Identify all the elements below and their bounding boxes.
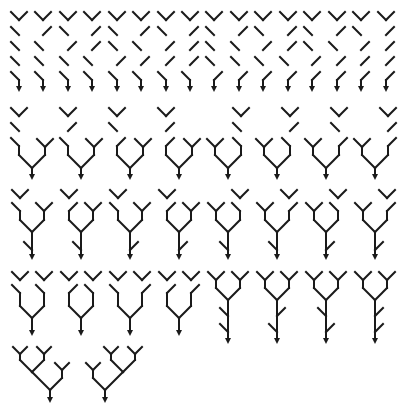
tree-row4-7 [306, 272, 346, 344]
tree-row4-3 [110, 272, 150, 336]
tree-row1-4 [84, 12, 100, 92]
tree-row1-1 [11, 12, 27, 92]
tree-row1-3 [60, 12, 76, 92]
root-arrow-icon [323, 254, 329, 260]
tree-row2-1 [11, 108, 53, 180]
root-arrow-icon [187, 86, 193, 92]
root-arrow-icon [372, 338, 378, 344]
root-arrow-icon [274, 338, 280, 344]
root-arrow-icon [225, 338, 231, 344]
root-arrow-icon [260, 86, 266, 92]
tree-row2-2 [60, 108, 102, 180]
root-arrow-icon [309, 86, 315, 92]
tree-row1-15 [353, 12, 369, 92]
root-arrow-icon [65, 86, 71, 92]
tree-row1-7 [158, 12, 174, 92]
root-arrow-icon [274, 254, 280, 260]
tree-row3-5 [208, 190, 248, 260]
root-arrow-icon [383, 86, 389, 92]
tree-row2-3 [109, 108, 151, 180]
root-arrow-icon [225, 254, 231, 260]
tree-row4-2 [61, 272, 101, 336]
tree-row4-1 [12, 272, 52, 336]
tree-row4-8 [355, 272, 395, 344]
root-arrow-icon [323, 338, 329, 344]
tree-row5-2 [86, 347, 142, 403]
root-arrow-icon [138, 86, 144, 92]
tree-row4-5 [208, 272, 248, 344]
tree-row1-12 [280, 12, 296, 92]
root-arrow-icon [372, 174, 378, 180]
root-arrow-icon [114, 86, 120, 92]
tree-row2-5 [207, 108, 249, 180]
tree-row1-16 [378, 12, 394, 92]
tree-row2-8 [354, 108, 396, 180]
root-arrow-icon [334, 86, 340, 92]
tree-row1-9 [206, 12, 222, 92]
root-arrow-icon [78, 330, 84, 336]
root-arrow-icon [372, 254, 378, 260]
root-arrow-icon [176, 330, 182, 336]
tree-row3-6 [257, 190, 297, 260]
tree-row2-6 [256, 108, 298, 180]
root-arrow-icon [47, 397, 53, 403]
root-arrow-icon [29, 174, 35, 180]
root-arrow-icon [29, 254, 35, 260]
tree-row1-13 [304, 12, 320, 92]
root-arrow-icon [176, 174, 182, 180]
tree-row3-8 [355, 190, 395, 260]
tree-row1-5 [109, 12, 125, 92]
root-arrow-icon [78, 174, 84, 180]
tree-row3-4 [159, 190, 199, 260]
root-arrow-icon [78, 254, 84, 260]
root-arrow-icon [358, 86, 364, 92]
tree-diagram [0, 0, 406, 415]
tree-row3-2 [61, 190, 101, 260]
root-arrow-icon [225, 174, 231, 180]
tree-row3-1 [12, 190, 52, 260]
root-arrow-icon [127, 330, 133, 336]
root-arrow-icon [40, 86, 46, 92]
tree-row3-3 [110, 190, 150, 260]
tree-row1-14 [329, 12, 345, 92]
root-arrow-icon [102, 397, 108, 403]
root-arrow-icon [323, 174, 329, 180]
tree-row1-10 [231, 12, 247, 92]
root-arrow-icon [176, 254, 182, 260]
root-arrow-icon [16, 86, 22, 92]
root-arrow-icon [89, 86, 95, 92]
tree-row2-7 [305, 108, 347, 180]
tree-row4-6 [257, 272, 297, 344]
tree-row5-1 [13, 347, 69, 403]
root-arrow-icon [285, 86, 291, 92]
root-arrow-icon [236, 86, 242, 92]
root-arrow-icon [274, 174, 280, 180]
tree-row4-4 [159, 272, 199, 336]
tree-row3-7 [306, 190, 346, 260]
tree-row1-11 [255, 12, 271, 92]
root-arrow-icon [163, 86, 169, 92]
root-arrow-icon [29, 330, 35, 336]
tree-row1-8 [182, 12, 198, 92]
root-arrow-icon [127, 254, 133, 260]
tree-row1-2 [35, 12, 51, 92]
tree-row1-6 [133, 12, 149, 92]
root-arrow-icon [211, 86, 217, 92]
tree-row2-4 [158, 108, 200, 180]
root-arrow-icon [127, 174, 133, 180]
binary-trees-figure [0, 0, 406, 415]
